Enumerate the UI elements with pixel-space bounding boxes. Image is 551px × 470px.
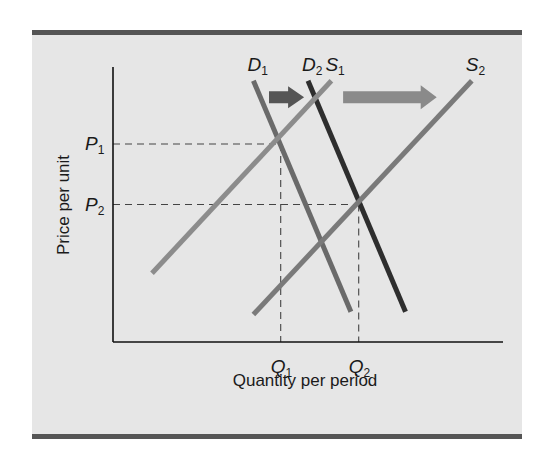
top-border (32, 30, 522, 35)
bottom-border (32, 434, 522, 439)
y-axis-label: Price per unit (54, 155, 73, 255)
x-axis-label: Quantity per period (233, 371, 378, 390)
diagram-canvas: P1Q1P2Q2D1D2S1S2 Quantity per period Pri… (0, 0, 551, 470)
supply-demand-diagram: P1Q1P2Q2D1D2S1S2 Quantity per period Pri… (0, 0, 551, 470)
